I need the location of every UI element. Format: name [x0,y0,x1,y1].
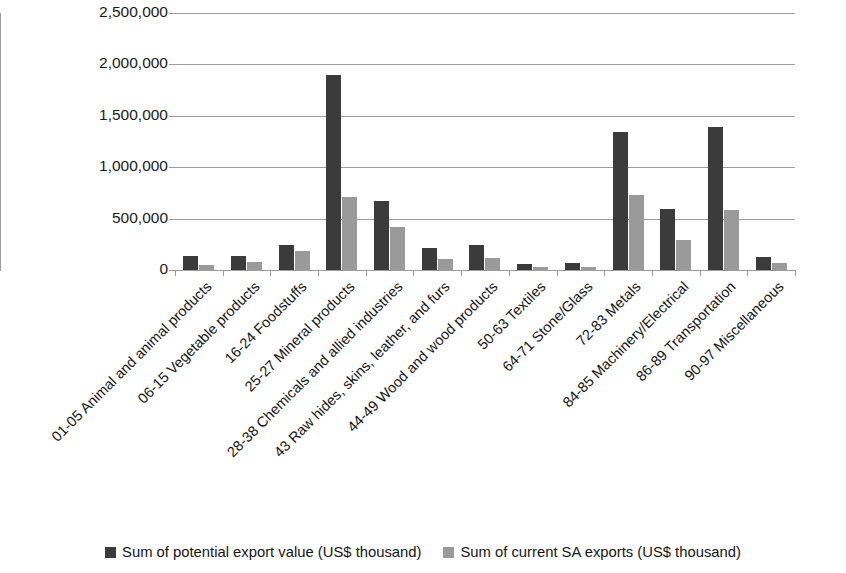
bar [708,127,723,270]
legend-item[interactable]: Sum of current SA exports (US$ thousand) [443,544,740,560]
bar [247,262,262,270]
plot-area [175,13,795,270]
y-axis-tick-mark [169,64,175,65]
bar [676,240,691,270]
legend-label: Sum of potential export value (US$ thous… [122,544,421,560]
bar [342,197,357,271]
legend-swatch-icon [105,547,116,558]
bar-group [461,13,509,270]
bar [279,245,294,270]
bar [438,259,453,270]
chart-legend: Sum of potential export value (US$ thous… [0,544,846,560]
y-axis-tick-label: 2,000,000 [0,54,168,72]
y-axis-tick-mark [169,167,175,168]
bar [326,75,341,270]
bar [295,251,310,270]
x-axis-category-labels: 01-05 Animal and animal products06-15 Ve… [0,270,846,500]
bar-group [413,13,461,270]
bar-chart: 0500,0001,000,0001,500,0002,000,0002,500… [0,0,846,573]
x-axis-category-label: 06-15 Vegetable products [0,278,262,573]
bar [772,263,787,270]
legend-label: Sum of current SA exports (US$ thousand) [460,544,740,560]
bar [390,227,405,270]
bar [660,209,675,270]
y-axis-tick-mark [169,219,175,220]
bar-group [270,13,318,270]
bar [724,210,739,270]
y-axis-tick-label: 1,000,000 [0,157,168,175]
bar [629,195,644,270]
bar [374,201,389,270]
y-axis-tick-mark [169,116,175,117]
y-axis-tick-label: 500,000 [0,209,168,227]
bar-group [700,13,748,270]
legend-item[interactable]: Sum of potential export value (US$ thous… [105,544,421,560]
bar-group [223,13,271,270]
bar-group [747,13,795,270]
bar [231,256,246,270]
y-axis-line [0,13,1,271]
y-axis-tick-label: 1,500,000 [0,106,168,124]
bar [422,248,437,270]
bar [485,258,500,270]
bar-group [318,13,366,270]
bar [756,257,771,270]
legend-swatch-icon [443,547,454,558]
y-axis-tick-mark [169,270,175,271]
y-axis-labels: 0500,0001,000,0001,500,0002,000,0002,500… [0,0,168,290]
y-axis-tick-mark [169,13,175,14]
bar [469,245,484,270]
bar [565,263,580,270]
bar-group [366,13,414,270]
bar [613,132,628,270]
bar-group [175,13,223,270]
bar [183,256,198,270]
bar-group [509,13,557,270]
bar-group [604,13,652,270]
bar-group [652,13,700,270]
y-axis-tick-label: 2,500,000 [0,3,168,21]
bar-group [557,13,605,270]
